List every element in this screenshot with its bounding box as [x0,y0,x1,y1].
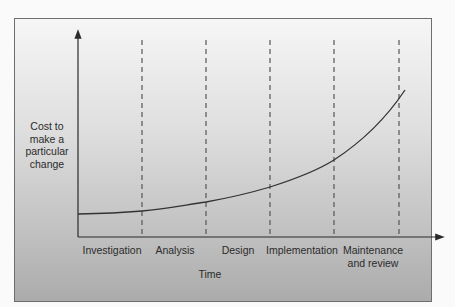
y-label-line-1: Cost to [22,120,72,133]
phase-label-analysis: Analysis [150,244,200,257]
maintenance-line-2: and review [340,257,406,270]
phase-label-implementation: Implementation [266,244,338,257]
phase-label-design: Design [215,244,261,257]
phase-label-maintenance: Maintenance and review [340,244,406,269]
phase-dividers [142,40,399,237]
phase-label-investigation: Investigation [80,244,144,257]
y-axis-label: Cost to make a particular change [22,120,72,170]
y-label-line-4: change [22,158,72,171]
x-axis-title: Time [190,268,230,281]
cost-curve [78,90,405,214]
y-label-line-2: make a [22,133,72,146]
maintenance-line-1: Maintenance [340,244,406,257]
y-label-line-3: particular [22,145,72,158]
